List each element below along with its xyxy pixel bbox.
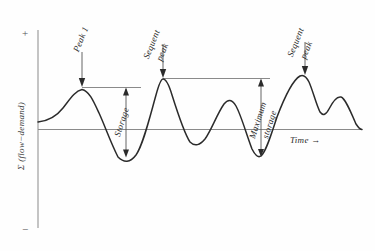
y-axis-positive-sign: + <box>22 28 28 39</box>
mass-curve <box>38 75 362 161</box>
figure-canvas <box>0 0 375 251</box>
y-axis-label: Σ (flow−demand) <box>17 102 26 170</box>
y-axis-negative-sign: − <box>22 224 28 235</box>
sequent-peak-figure: + − Σ (flow−demand) Peak 1 Storage Seque… <box>0 0 375 251</box>
peak1-arrow <box>79 52 85 87</box>
x-axis-label: Time → <box>290 136 321 145</box>
